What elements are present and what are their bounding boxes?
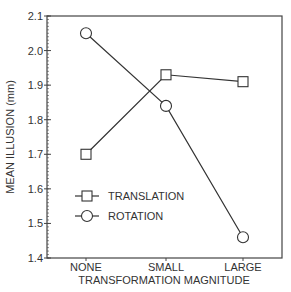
translation-point: [238, 77, 248, 87]
translation-point: [81, 149, 91, 159]
translation-line: [86, 75, 243, 155]
line-chart: 1.41.51.61.71.81.92.02.1 NONESMALLLARGE …: [0, 0, 291, 292]
x-tick-label: NONE: [70, 261, 102, 273]
x-tick-label: SMALL: [148, 261, 184, 273]
rotation-point: [81, 28, 92, 39]
legend-translation-marker: [82, 191, 92, 201]
y-tick-label: 1.8: [28, 114, 43, 126]
translation-point: [161, 70, 171, 80]
y-tick-label: 1.6: [28, 183, 43, 195]
y-tick-label: 1.7: [28, 148, 43, 160]
rotation-point: [238, 232, 249, 243]
y-tick-label: 1.5: [28, 217, 43, 229]
y-tick-label: 1.4: [28, 252, 43, 264]
plot-frame: [47, 16, 282, 258]
legend-translation-label: TRANSLATION: [108, 190, 184, 202]
y-tick-label: 2.1: [28, 10, 43, 22]
legend-rotation-marker: [82, 211, 93, 222]
legend-rotation-label: ROTATION: [108, 210, 163, 222]
y-tick-label: 2.0: [28, 45, 43, 57]
y-axis-title: MEAN ILLUSION (mm): [4, 80, 16, 194]
x-tick-label: LARGE: [224, 261, 261, 273]
rotation-point: [161, 100, 172, 111]
y-tick-label: 1.9: [28, 79, 43, 91]
rotation-line: [86, 33, 243, 237]
x-axis-title: TRANSFORMATION MAGNITUDE: [78, 274, 250, 286]
